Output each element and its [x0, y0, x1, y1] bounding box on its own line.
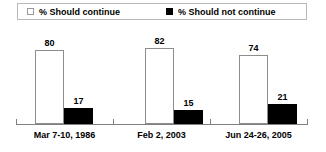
- legend-label-should-continue: % Should continue: [39, 7, 120, 17]
- bar-value-should-continue: 74: [239, 43, 268, 53]
- bar-should-continue: [239, 55, 268, 124]
- x-axis-line: [16, 124, 308, 125]
- white-square-icon: [27, 8, 34, 15]
- bar-should-continue: [145, 48, 174, 124]
- bar-group-1986: 80 17: [35, 24, 93, 124]
- axis-label-category-1: Feb 2, 2003: [113, 130, 210, 141]
- axis-tick: [16, 119, 17, 124]
- legend-item-should-not-continue: % Should not continue: [166, 4, 276, 19]
- chart-legend: % Should continue % Should not continue: [17, 3, 307, 20]
- bar-should-not-continue: [64, 108, 93, 124]
- black-square-icon: [166, 8, 173, 15]
- plot-area: 80 17 82 15 74 21: [0, 24, 326, 125]
- bar-chart: % Should continue % Should not continue …: [0, 0, 326, 152]
- bar-value-should-not-continue: 21: [268, 92, 297, 102]
- axis-tick: [307, 119, 308, 124]
- bar-value-should-continue: 80: [35, 38, 64, 48]
- bar-value-should-not-continue: 15: [174, 98, 203, 108]
- bar-group-2003: 82 15: [145, 24, 203, 124]
- legend-item-should-continue: % Should continue: [27, 4, 120, 19]
- legend-label-should-not-continue: % Should not continue: [178, 7, 276, 17]
- bar-group-2005: 74 21: [239, 24, 297, 124]
- axis-tick: [113, 119, 114, 124]
- axis-label-category-0: Mar 7-10, 1986: [16, 130, 113, 141]
- axis-label-category-2: Jun 24-26, 2005: [210, 130, 307, 141]
- x-axis-labels: Mar 7-10, 1986 Feb 2, 2003 Jun 24-26, 20…: [0, 130, 326, 146]
- bar-should-continue: [35, 50, 64, 124]
- bar-should-not-continue: [174, 110, 203, 124]
- bar-should-not-continue: [268, 104, 297, 124]
- bar-value-should-not-continue: 17: [64, 96, 93, 106]
- bar-value-should-continue: 82: [145, 36, 174, 46]
- axis-tick: [210, 119, 211, 124]
